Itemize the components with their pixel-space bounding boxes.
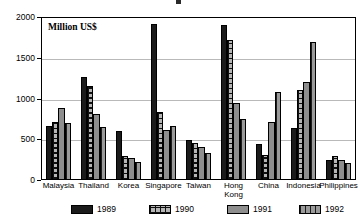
bar-1991-china	[268, 122, 274, 180]
bar-chart: 2000 1500 1000 500 0 Million US$ Malaysi…	[0, 0, 361, 222]
legend-swatch-1991	[227, 205, 249, 214]
bar-1992-indonesia	[310, 42, 316, 180]
bar-1991-korea	[128, 158, 134, 180]
y-tick-label-500: 500	[21, 134, 35, 144]
y-tick-label-2000: 2000	[16, 12, 35, 22]
top-marker	[176, 0, 181, 4]
y-axis: 2000 1500 1000 500 0	[0, 0, 38, 222]
y-tick-label-1500: 1500	[16, 53, 35, 63]
y-tick-label-1000: 1000	[16, 94, 35, 104]
x-axis-labels: MalaysiaThailandKoreaSingaporeTaiwanHong…	[41, 181, 356, 205]
bar-1992-singapore	[170, 126, 176, 180]
bar-1990-singapore	[157, 112, 163, 180]
x-label-philippines: Philippines	[317, 181, 360, 190]
bar-1989-thailand	[81, 77, 87, 180]
legend-item-1992: 1992	[299, 204, 344, 214]
legend-swatch-1989	[71, 205, 93, 214]
bar-1991-singapore	[163, 130, 169, 180]
bar-1990-korea	[122, 156, 128, 180]
legend-item-1990: 1990	[149, 204, 194, 214]
legend-item-1989: 1989	[71, 204, 116, 214]
bar-group	[116, 17, 142, 180]
bar-1989-hong-kong	[221, 25, 227, 180]
bar-1990-malaysia	[52, 122, 58, 180]
bar-1992-korea	[135, 162, 141, 180]
bar-1989-malaysia	[46, 126, 52, 180]
bar-1992-china	[275, 92, 281, 180]
bar-1989-taiwan	[186, 140, 192, 180]
bar-1990-china	[262, 155, 268, 180]
bar-1992-philippines	[345, 163, 351, 180]
bar-group	[46, 17, 72, 180]
bar-group	[186, 17, 212, 180]
bar-1990-indonesia	[297, 90, 303, 180]
bar-1990-thailand	[87, 86, 93, 180]
y-tick-label-0: 0	[30, 175, 35, 185]
bar-1990-philippines	[332, 156, 338, 180]
bar-1991-thailand	[93, 114, 99, 180]
bar-1990-taiwan	[192, 143, 198, 180]
bar-1989-philippines	[326, 160, 332, 180]
legend-label-1992: 1992	[325, 204, 344, 214]
legend: 1989 1990 1991 1992	[41, 204, 356, 220]
bars-layer	[41, 17, 356, 180]
bar-1991-malaysia	[58, 108, 64, 180]
bar-group	[291, 17, 317, 180]
bar-1991-indonesia	[303, 82, 309, 180]
bar-1992-thailand	[100, 127, 106, 180]
bar-group	[151, 17, 177, 180]
bar-1989-indonesia	[291, 128, 297, 180]
bar-1991-taiwan	[198, 147, 204, 180]
bar-1989-china	[256, 144, 262, 180]
bar-group	[81, 17, 107, 180]
bar-1992-hong-kong	[240, 119, 246, 180]
bar-1990-hong-kong	[227, 40, 233, 180]
bar-group	[326, 17, 352, 180]
bar-1992-taiwan	[205, 153, 211, 180]
bar-1989-korea	[116, 131, 122, 180]
legend-label-1989: 1989	[97, 204, 116, 214]
legend-item-1991: 1991	[227, 204, 272, 214]
bar-1991-hong-kong	[233, 103, 239, 180]
legend-swatch-1992	[299, 205, 321, 214]
legend-swatch-1990	[149, 205, 171, 214]
bar-group	[221, 17, 247, 180]
bar-1992-malaysia	[65, 123, 71, 180]
bar-group	[256, 17, 282, 180]
bar-1989-singapore	[151, 24, 157, 180]
bar-1991-philippines	[338, 160, 344, 180]
legend-label-1990: 1990	[175, 204, 194, 214]
legend-label-1991: 1991	[253, 204, 272, 214]
